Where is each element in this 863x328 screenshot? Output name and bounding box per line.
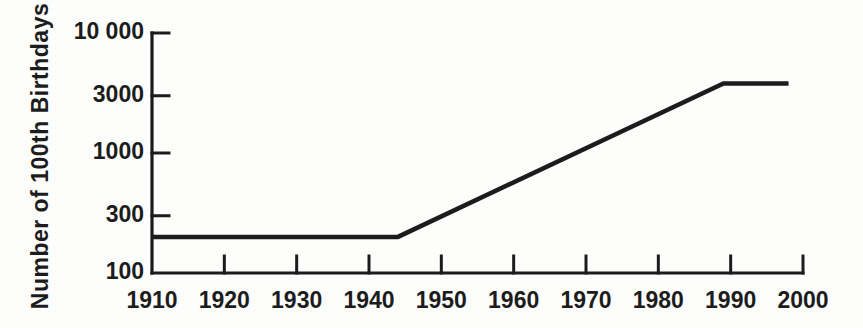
x-tick-label: 1970 (560, 287, 611, 314)
x-tick-label: 2000 (777, 287, 828, 314)
x-tick-label: 1990 (705, 287, 756, 314)
y-tick-label: 300 (0, 201, 144, 228)
x-tick-label: 1930 (271, 287, 322, 314)
x-tick-label: 1950 (416, 287, 467, 314)
x-tick-label: 1960 (488, 287, 539, 314)
x-tick-label: 1920 (199, 287, 250, 314)
y-tick-label: 100 (0, 258, 144, 285)
y-tick-label: 1000 (0, 138, 144, 165)
y-tick-label: 10 000 (0, 18, 144, 45)
x-tick-label: 1940 (343, 287, 394, 314)
y-tick-label: 3000 (0, 81, 144, 108)
chart-figure: Number of 100th Birthdays 10030010003000… (0, 0, 863, 328)
x-tick-label: 1910 (126, 287, 177, 314)
data-line-100th-birthdays (152, 83, 789, 236)
x-tick-label: 1980 (633, 287, 684, 314)
